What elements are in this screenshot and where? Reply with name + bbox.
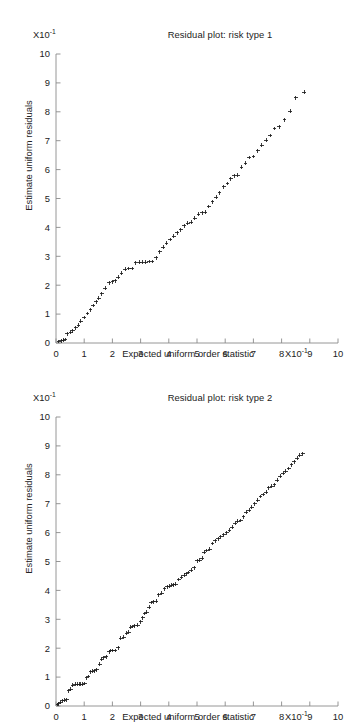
y-tick-label: 0 <box>45 337 50 348</box>
y-tick-label: 3 <box>45 614 50 625</box>
x-axis-title: Expected uniform order statistic <box>96 711 280 722</box>
x-exponent-superscript: -1 <box>302 710 308 717</box>
y-tick-label: 10 <box>40 48 50 59</box>
x-axis-exponent-label: X10-1 <box>285 711 308 722</box>
y-tick-label: 0 <box>45 700 50 711</box>
y-tick-label: 7 <box>45 135 50 146</box>
y-axis-title: Estimate uniform residuals <box>23 429 34 609</box>
y-tick-label: 8 <box>45 106 50 117</box>
x-tick-label: 1 <box>82 348 87 359</box>
y-tick-label: 2 <box>45 280 50 291</box>
plot-canvas-1: 012345678910012345678910 <box>0 0 351 363</box>
x-tick-label: 0 <box>53 348 58 359</box>
y-tick-label: 2 <box>45 643 50 654</box>
y-tick-label: 4 <box>45 585 50 596</box>
y-tick-label: 8 <box>45 469 50 480</box>
y-tick-label: 6 <box>45 164 50 175</box>
x-axis-title: Expected uniform order statistic <box>96 348 280 359</box>
y-tick-label: 9 <box>45 440 50 451</box>
data-point-group <box>56 452 305 706</box>
plot-canvas-2: 012345678910012345678910 <box>0 363 351 726</box>
data-point-group <box>57 90 306 343</box>
x-axis-exponent-label: X10-1 <box>285 348 308 359</box>
x-exponent-superscript: -1 <box>302 347 308 354</box>
y-tick-label: 10 <box>40 411 50 422</box>
y-tick-label: 5 <box>45 556 50 567</box>
y-tick-label: 7 <box>45 498 50 509</box>
x-tick-label: 10 <box>333 348 343 359</box>
residual-plot-risk-type-1: X10-1 Residual plot: risk type 1 0123456… <box>0 0 351 363</box>
y-axis-title: Estimate uniform residuals <box>23 66 34 246</box>
y-tick-label: 1 <box>45 671 50 682</box>
y-tick-label: 6 <box>45 527 50 538</box>
y-tick-label: 5 <box>45 193 50 204</box>
y-tick-label: 1 <box>45 308 50 319</box>
y-tick-label: 9 <box>45 77 50 88</box>
x-tick-label: 10 <box>333 711 343 722</box>
y-tick-label: 3 <box>45 251 50 262</box>
x-tick-label: 0 <box>53 711 58 722</box>
y-tick-label: 4 <box>45 222 50 233</box>
residual-plot-risk-type-2: X10-1 Residual plot: risk type 2 0123456… <box>0 363 351 726</box>
x-tick-label: 1 <box>82 711 87 722</box>
